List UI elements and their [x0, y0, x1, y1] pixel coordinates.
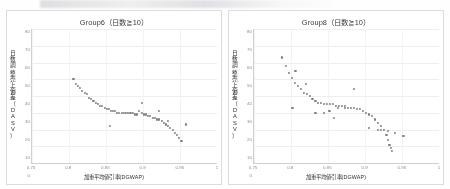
- gridline-vertical: [402, 29, 403, 163]
- scatter-point: [176, 133, 178, 135]
- y-tick-label: 50: [25, 83, 30, 88]
- x-axis-label-group6: 加重平均値引率(DGWAP): [7, 173, 221, 184]
- x-tick-label: 0.85: [323, 165, 332, 170]
- gridline-horizontal: [254, 113, 439, 114]
- scatter-point: [385, 133, 387, 135]
- scatter-point: [374, 118, 376, 120]
- scatter-point: [136, 113, 138, 115]
- gridline-horizontal: [254, 96, 439, 97]
- scatter-point: [294, 82, 296, 84]
- gridline-vertical: [365, 29, 366, 163]
- x-tick-label: 0.75: [249, 165, 258, 170]
- gridline-vertical: [32, 29, 33, 163]
- y-tick-label: 80: [247, 29, 252, 34]
- chart-title-group6: Group6（日数≧10）: [7, 11, 221, 27]
- scatter-point: [333, 117, 335, 119]
- chart-body-group8: 日数調整売上偏差（DASV） 01020304050607080 0.750.8…: [229, 27, 443, 173]
- scatter-plot-group8: [253, 29, 439, 164]
- scatter-point: [368, 113, 370, 115]
- scatter-point: [359, 108, 361, 110]
- gridline-vertical: [106, 29, 107, 163]
- x-tick-label: 1: [216, 165, 218, 170]
- scatter-point: [297, 85, 299, 87]
- scatter-point: [285, 65, 287, 67]
- scatter-point: [394, 132, 396, 134]
- scatter-point: [332, 103, 334, 105]
- gridline-vertical: [254, 29, 255, 163]
- x-axis-ticks-group8: 0.750.80.850.90.951: [253, 164, 439, 173]
- x-tick-label: 0.8: [287, 165, 293, 170]
- y-tick-label: 0: [28, 173, 30, 178]
- scatter-point: [356, 108, 358, 110]
- x-tick-label: 0.9: [362, 165, 368, 170]
- scatter-point: [379, 125, 381, 127]
- y-tick-label: 50: [247, 83, 252, 88]
- y-axis-label-group8: 日数調整売上偏差（DASV）: [231, 29, 240, 173]
- scatter-point: [341, 105, 343, 107]
- scatter-point: [300, 88, 302, 90]
- scatter-point: [291, 107, 293, 109]
- gridline-horizontal: [254, 46, 439, 47]
- scan-smudge-artifact: [40, 0, 340, 8]
- gridline-horizontal: [254, 29, 439, 30]
- plot-wrap-group6: 0.750.80.850.90.951: [31, 29, 217, 173]
- scatter-point: [377, 122, 379, 124]
- gridline-horizontal: [32, 96, 217, 97]
- gridline-vertical: [291, 29, 292, 163]
- x-tick-label: 0.85: [101, 165, 110, 170]
- x-tick-label: 0.95: [176, 165, 185, 170]
- scatter-point: [303, 92, 305, 94]
- scatter-point: [185, 123, 187, 125]
- gridline-vertical: [180, 29, 181, 163]
- scatter-point: [109, 125, 111, 127]
- scatter-point: [323, 103, 325, 105]
- scatter-point: [353, 88, 355, 90]
- scatter-point: [371, 115, 373, 117]
- scatter-point: [320, 102, 322, 104]
- gridline-horizontal: [32, 130, 217, 131]
- x-axis-label-group8: 加重平均値引率(DGWAP): [229, 173, 443, 184]
- scatter-point: [350, 107, 352, 109]
- scatter-point: [387, 130, 389, 132]
- gridline-horizontal: [254, 130, 439, 131]
- scatter-plot-group6: [31, 29, 217, 164]
- scatter-point: [353, 107, 355, 109]
- scatter-point: [79, 87, 81, 89]
- x-axis-ticks-group6: 0.750.80.850.90.951: [31, 164, 217, 173]
- gridline-horizontal: [254, 63, 439, 64]
- gridline-horizontal: [32, 29, 217, 30]
- scatter-point: [311, 98, 313, 100]
- x-tick-label: 0.8: [65, 165, 71, 170]
- y-tick-label: 40: [25, 101, 30, 106]
- chart-title-group8: Group8（日数≧10）: [229, 11, 443, 27]
- scatter-point: [329, 103, 331, 105]
- y-tick-label: 30: [25, 119, 30, 124]
- plot-wrap-group8: 0.750.80.850.90.951: [253, 29, 439, 173]
- scatter-point: [294, 70, 296, 72]
- y-tick-label: 60: [247, 65, 252, 70]
- gridline-horizontal: [32, 79, 217, 80]
- scatter-point: [344, 107, 346, 109]
- scatter-point: [288, 72, 290, 74]
- y-tick-label: 60: [25, 65, 30, 70]
- y-tick-label: 10: [247, 155, 252, 160]
- scatter-point: [387, 139, 389, 141]
- gridline-horizontal: [254, 146, 439, 147]
- scatter-point: [281, 56, 283, 58]
- y-tick-label: 10: [25, 155, 30, 160]
- y-tick-label: 30: [247, 119, 252, 124]
- scatter-point: [317, 102, 319, 104]
- gridline-horizontal: [254, 79, 439, 80]
- chart-card-group8: Group8（日数≧10） 日数調整売上偏差（DASV） 01020304050…: [228, 10, 444, 185]
- y-tick-label: 0: [250, 173, 252, 178]
- scatter-point: [347, 107, 349, 109]
- gridline-vertical: [143, 29, 144, 163]
- y-tick-label: 80: [25, 29, 30, 34]
- y-tick-label: 20: [25, 137, 30, 142]
- y-tick-label: 70: [25, 47, 30, 52]
- gridline-horizontal: [32, 146, 217, 147]
- x-tick-label: 0.9: [140, 165, 146, 170]
- gridline-horizontal: [32, 46, 217, 47]
- x-tick-label: 1: [438, 165, 440, 170]
- scatter-point: [167, 120, 169, 122]
